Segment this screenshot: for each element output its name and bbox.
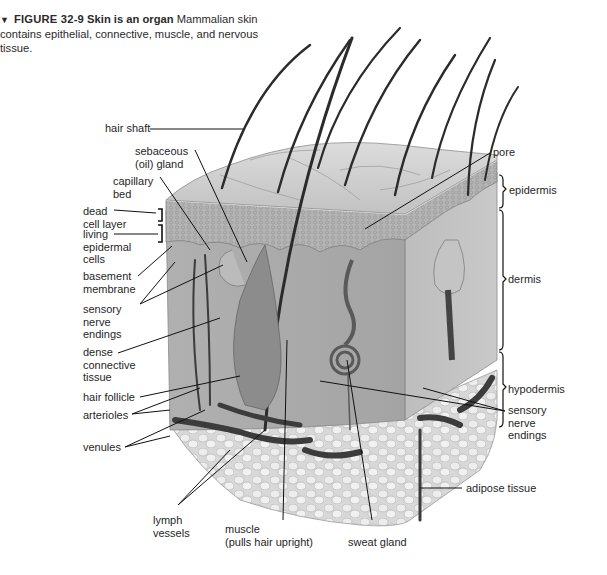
label-lymph-vessels: lymph vessels — [153, 514, 190, 539]
label-venules: venules — [83, 441, 121, 454]
label-basement-membrane: basement membrane — [83, 270, 136, 295]
label-capillary-bed: capillary bed — [113, 175, 153, 200]
label-epidermis: epidermis — [509, 184, 557, 197]
label-adipose-tissue: adipose tissue — [466, 482, 536, 495]
label-sebaceous-gland: sebaceous (oil) gland — [135, 145, 188, 170]
label-muscle: muscle (pulls hair upright) — [225, 523, 313, 548]
label-hair-shaft: hair shaft — [105, 122, 150, 135]
label-hair-follicle: hair follicle — [83, 391, 135, 404]
label-sweat-gland: sweat gland — [348, 536, 407, 549]
label-hypodermis: hypodermis — [508, 383, 565, 396]
layer-braces — [499, 175, 506, 427]
label-dead-cell-layer: dead cell layer — [83, 205, 126, 230]
label-pore: pore — [493, 146, 515, 159]
label-sensory-nerve-endings-right: sensory nerve endings — [508, 404, 547, 442]
label-arterioles: arterioles — [83, 409, 128, 422]
label-living-epidermal-cells: living epidermal cells — [83, 228, 131, 266]
label-dense-connective-tissue: dense connective tissue — [83, 346, 136, 384]
label-dermis: dermis — [508, 273, 541, 286]
label-sensory-nerve-endings-left: sensory nerve endings — [83, 303, 122, 341]
